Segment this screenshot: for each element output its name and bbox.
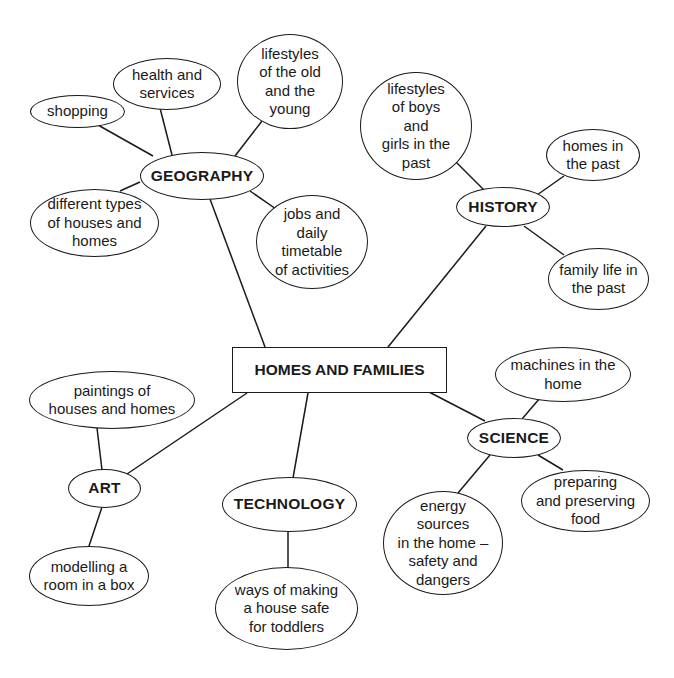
leaf-homes-past: homes in the past bbox=[546, 129, 640, 181]
hub-art-label: ART bbox=[88, 479, 120, 498]
leaf-house-types: different types of houses and homes bbox=[30, 189, 159, 257]
leaf-jobs-timetable: jobs and daily timetable of activities bbox=[256, 195, 368, 289]
hub-history-label: HISTORY bbox=[468, 198, 537, 217]
leaf-paintings: paintings of houses and homes bbox=[29, 371, 195, 429]
leaf-energy-sources: energy sources in the home – safety and … bbox=[383, 491, 503, 595]
hub-science-label: SCIENCE bbox=[479, 429, 549, 448]
hub-science: SCIENCE bbox=[467, 418, 561, 458]
hub-geography-label: GEOGRAPHY bbox=[151, 167, 254, 186]
leaf-lifestyles-past: lifestyles of boys and girls in the past bbox=[360, 72, 472, 180]
leaf-shopping: shopping bbox=[30, 95, 125, 128]
center-topic-box: HOMES AND FAMILIES bbox=[232, 347, 447, 393]
hub-technology-label: TECHNOLOGY bbox=[234, 495, 345, 514]
center-topic-label: HOMES AND FAMILIES bbox=[255, 361, 425, 380]
hub-geography: GEOGRAPHY bbox=[140, 152, 264, 200]
mind-map: HOMES AND FAMILIES GEOGRAPHY HISTORY SCI… bbox=[0, 0, 674, 678]
leaf-safe-toddlers: ways of making a house safe for toddlers bbox=[215, 567, 358, 650]
hub-technology: TECHNOLOGY bbox=[222, 477, 357, 532]
leaf-family-life-past: family life in the past bbox=[548, 248, 649, 310]
leaf-machines: machines in the home bbox=[495, 347, 631, 402]
leaf-preparing-food: preparing and preserving food bbox=[521, 470, 650, 532]
hub-history: HISTORY bbox=[456, 187, 550, 227]
hub-art: ART bbox=[68, 469, 141, 508]
leaf-lifestyles-old-young: lifestyles of the old and the young bbox=[237, 34, 343, 129]
leaf-modelling: modelling a room in a box bbox=[29, 546, 149, 606]
leaf-health-services: health and services bbox=[113, 58, 221, 110]
